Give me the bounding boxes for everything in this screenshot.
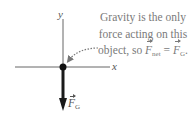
gravity-arrowhead-icon xyxy=(59,98,67,111)
y-axis-label: y xyxy=(58,8,63,20)
net-force-symbol: F xyxy=(145,42,152,59)
force-label: FG xyxy=(68,97,80,111)
object-point xyxy=(60,64,67,71)
force-vector-symbol: F xyxy=(68,97,75,109)
gravity-force-letter: F xyxy=(173,44,180,56)
net-force-letter: F xyxy=(145,44,152,56)
note-line-1: Gravity is the only xyxy=(93,9,191,26)
note-prefix: object, so xyxy=(98,44,145,56)
annotation-note: Gravity is the only force acting on this… xyxy=(93,9,191,63)
note-line-3: object, so Fnet = FG. xyxy=(93,42,191,63)
note-line-2: force acting on this xyxy=(93,26,191,43)
free-body-diagram: y x FG Gravity is the only force acting … xyxy=(0,0,191,118)
force-subscript: G xyxy=(75,103,80,111)
period: . xyxy=(185,44,188,56)
net-force-subscript: net xyxy=(152,50,161,58)
equals-sign: = xyxy=(161,44,173,56)
force-symbol: F xyxy=(68,97,75,109)
gravity-force-symbol: F xyxy=(173,42,180,59)
